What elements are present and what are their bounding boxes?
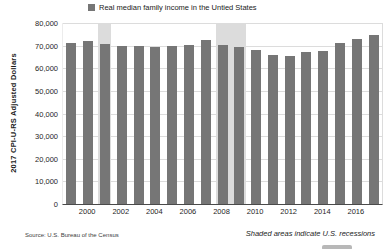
plot-area xyxy=(62,23,383,205)
x-tick-label: 2016 xyxy=(347,207,364,216)
bar xyxy=(268,55,278,204)
bar xyxy=(66,43,76,204)
y-tick-label: 60,000 xyxy=(35,64,58,73)
y-tick-label: 10,000 xyxy=(35,177,58,186)
x-tick-label: 2002 xyxy=(112,207,129,216)
x-tick-label: 2004 xyxy=(146,207,163,216)
x-tick-label: 2006 xyxy=(180,207,197,216)
chart-legend: Real median family income in the Untied … xyxy=(88,3,257,12)
recession-note: Shaded areas indicate U.S. recessions xyxy=(246,229,375,238)
bar xyxy=(318,51,328,204)
y-axis-title: 2017 CPI-U-RS Adjusted Dollars xyxy=(9,53,18,173)
legend-swatch-icon xyxy=(88,4,95,11)
y-tick-label: 30,000 xyxy=(35,132,58,141)
bar xyxy=(335,43,345,204)
source-note: Source: U.S. Bureau of the Census xyxy=(25,232,119,238)
bar xyxy=(201,40,211,204)
x-tick-label: 2000 xyxy=(79,207,96,216)
chart-canvas: Real median family income in the Untied … xyxy=(0,0,388,249)
legend-label: Real median family income in the Untied … xyxy=(99,3,257,12)
y-tick-label: 50,000 xyxy=(35,86,58,95)
bar xyxy=(251,50,261,204)
bar xyxy=(167,46,177,204)
bar xyxy=(83,41,93,204)
bar xyxy=(218,45,228,204)
bar xyxy=(184,45,194,204)
x-tick-label: 2010 xyxy=(247,207,264,216)
y-tick-label: 20,000 xyxy=(35,154,58,163)
bar xyxy=(100,44,110,204)
x-tick-label: 2008 xyxy=(213,207,230,216)
gridline xyxy=(63,23,382,24)
bar xyxy=(117,46,127,204)
cropped-ui-artifact xyxy=(322,245,352,249)
bar xyxy=(369,35,379,204)
bar xyxy=(234,47,244,204)
x-tick-label: 2014 xyxy=(314,207,331,216)
bar xyxy=(134,46,144,204)
y-tick-label: 70,000 xyxy=(35,41,58,50)
x-tick-label: 2012 xyxy=(280,207,297,216)
bar xyxy=(301,52,311,204)
bar xyxy=(150,47,160,204)
y-tick-label: 80,000 xyxy=(35,19,58,28)
y-tick-label: 40,000 xyxy=(35,109,58,118)
bar xyxy=(285,56,295,204)
bar xyxy=(352,39,362,204)
y-tick-label: 0 xyxy=(54,200,58,209)
